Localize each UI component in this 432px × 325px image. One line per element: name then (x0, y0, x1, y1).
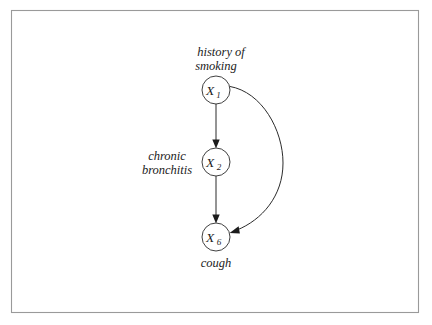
node-x6-symbol: X (205, 230, 215, 245)
node-x1[interactable]: X 1 (202, 76, 230, 104)
node-x2-subscript: 2 (217, 162, 222, 172)
annotation-history-of-smoking-line2: smoking (195, 59, 237, 73)
node-x6-subscript: 6 (217, 237, 222, 247)
annotation-chronic-bronchitis-line2: bronchitis (142, 163, 192, 177)
node-x6[interactable]: X 6 (202, 223, 230, 251)
annotation-cough: cough (201, 256, 232, 270)
annotation-history-of-smoking-line1: history of (197, 45, 246, 59)
annotation-chronic-bronchitis-line1: chronic (148, 149, 186, 163)
node-x1-symbol: X (205, 83, 215, 98)
node-x2-symbol: X (205, 155, 215, 170)
annotation-chronic-bronchitis: chronic bronchitis (142, 149, 192, 177)
node-x1-subscript: 1 (216, 90, 221, 100)
causal-dag-figure: X 1 X 2 X 6 history of smoking chronic b… (0, 0, 432, 325)
node-x2[interactable]: X 2 (202, 148, 230, 176)
annotation-cough-label: cough (201, 256, 232, 270)
